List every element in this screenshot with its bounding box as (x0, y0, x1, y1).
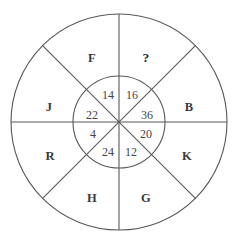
outer-sector-label-bottom-left: H (87, 192, 97, 205)
wheel-puzzle-figure: ? B K G H R J F 16 36 20 12 24 4 22 14 (0, 0, 241, 244)
inner-sector-value-right-upper: 36 (141, 109, 153, 121)
wheel-diagram-canvas (0, 0, 241, 244)
inner-sector-value-top-left: 14 (102, 89, 114, 101)
inner-sector-value-bottom-right: 12 (125, 146, 137, 158)
inner-sector-value-right-lower: 20 (140, 128, 152, 140)
outer-sector-label-bottom-right: G (141, 192, 151, 205)
inner-sector-value-bottom-left: 24 (102, 146, 114, 158)
outer-sector-label-top-left: F (88, 52, 96, 65)
inner-sector-value-left-lower: 4 (90, 128, 96, 140)
inner-sector-value-left-upper: 22 (86, 109, 98, 121)
inner-sector-value-top-right: 16 (126, 89, 138, 101)
outer-sector-label-right-upper: B (185, 101, 194, 114)
sector-divider-lines (11, 14, 227, 230)
outer-sector-label-left-lower: R (45, 150, 54, 163)
outer-sector-label-left-upper: J (46, 101, 52, 114)
outer-sector-label-right-lower: K (182, 150, 192, 163)
outer-sector-label-top-right: ? (143, 51, 150, 65)
